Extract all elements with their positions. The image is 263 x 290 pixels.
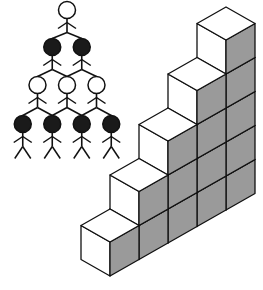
stick-figure-pyramid — [14, 2, 121, 159]
stick-figure — [52, 2, 82, 39]
stick-figure-head — [103, 116, 120, 133]
stick-figure-head — [29, 77, 46, 94]
stick-figure — [23, 77, 53, 116]
cube-staircase — [81, 7, 255, 276]
stick-figure-head — [73, 39, 90, 56]
stick-figure — [73, 116, 91, 159]
stick-figure-head — [59, 2, 76, 19]
stick-figure — [102, 116, 120, 159]
stick-figure — [43, 116, 61, 159]
stick-figure-head — [14, 116, 31, 133]
diagram-canvas — [0, 0, 263, 290]
stick-figure-head — [44, 116, 61, 133]
stick-figure-head — [59, 77, 76, 94]
stick-figure-head — [44, 39, 61, 56]
stick-figure — [14, 116, 32, 159]
stick-figure — [38, 39, 68, 77]
stick-figure-head — [73, 116, 90, 133]
stick-figure-head — [88, 77, 105, 94]
stick-figure — [82, 77, 112, 116]
stick-figure — [67, 39, 97, 77]
stick-figure — [52, 77, 82, 116]
